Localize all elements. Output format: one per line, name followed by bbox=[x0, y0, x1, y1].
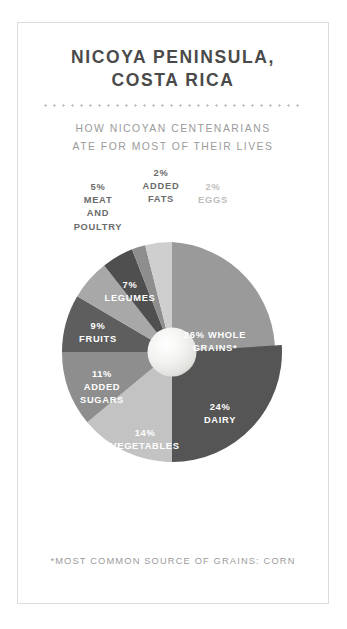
title-line-2: COSTA RICA bbox=[31, 69, 315, 92]
label-whole-grains-line-1: 26% WHOLE bbox=[184, 330, 246, 340]
dotted-divider bbox=[41, 104, 305, 107]
label-added-sugars-line-2: ADDED bbox=[84, 382, 121, 392]
label-dairy-line-1: 24% bbox=[210, 402, 231, 412]
label-legumes-line-1: 7% bbox=[123, 280, 138, 290]
label-dairy-line-2: DAIRY bbox=[204, 415, 236, 425]
label-added-sugars-line-1: 11% bbox=[92, 369, 112, 379]
label-vegetables-line-1: 14% bbox=[135, 428, 156, 438]
subtitle-line-2: ATE FOR MOST OF THEIR LIVES bbox=[33, 138, 313, 156]
label-vegetables-line-2: VEGETABLES bbox=[110, 441, 179, 451]
callout-added-fats: 2% ADDED FATS bbox=[133, 167, 189, 207]
page-subtitle: HOW NICOYAN CENTENARIANS ATE FOR MOST OF… bbox=[33, 120, 313, 156]
footnote: *MOST COMMON SOURCE OF GRAINS: CORN bbox=[17, 556, 329, 566]
label-fruits-line-2: FRUITS bbox=[79, 334, 117, 344]
label-added-sugars-line-3: SUGARS bbox=[80, 395, 124, 405]
label-legumes-line-2: LEGUMES bbox=[105, 293, 156, 303]
poster-header: NICOYA PENINSULA,COSTA RICA HOW NICOYAN … bbox=[17, 46, 329, 157]
subtitle-line-1: HOW NICOYAN CENTENARIANS bbox=[33, 120, 313, 138]
pie-chart: 26% WHOLE GRAINS* 24% DAIRY 14% VEGETABL… bbox=[62, 242, 282, 462]
pie-callout-labels: 5% MEAT AND POULTRY 2% ADDED FATS 2% EGG… bbox=[17, 160, 329, 250]
callout-meat-and-poultry: 5% MEAT AND POULTRY bbox=[66, 181, 130, 234]
label-fruits-line-1: 9% bbox=[91, 321, 106, 331]
page-title: NICOYA PENINSULA,COSTA RICA bbox=[17, 46, 329, 92]
title-line-1: NICOYA PENINSULA, bbox=[71, 47, 275, 67]
pie-chart-svg: 26% WHOLE GRAINS* 24% DAIRY 14% VEGETABL… bbox=[62, 242, 282, 462]
label-whole-grains-line-2: GRAINS* bbox=[193, 343, 238, 353]
pie-chart-area: 5% MEAT AND POULTRY 2% ADDED FATS 2% EGG… bbox=[17, 160, 329, 520]
infographic-poster: NICOYA PENINSULA,COSTA RICA HOW NICOYAN … bbox=[0, 0, 347, 629]
callout-eggs: 2% EGGS bbox=[189, 181, 237, 207]
